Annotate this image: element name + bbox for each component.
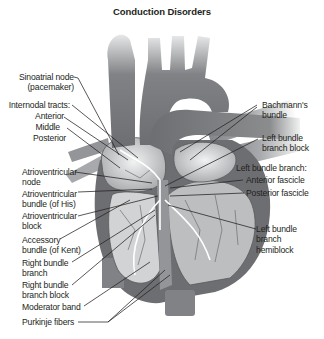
label-posterior-fascicle: Posterior fascicle bbox=[246, 188, 309, 198]
label-bundle-of-his: Atrioventricular bundle (of His) bbox=[22, 189, 77, 210]
label-anterior-fascicle: Anterior fascicle bbox=[246, 175, 305, 185]
label-left-bundle-branch-hemiblock: Left bundle branch hemiblock bbox=[256, 224, 297, 255]
label-internodal-anterior: Anterior bbox=[0, 111, 64, 121]
label-internodal-posterior: Posterior bbox=[0, 133, 66, 143]
label-right-bundle-branch-block: Right bundle branch block bbox=[22, 280, 69, 301]
label-bundle-of-kent: Accessory bundle (of Kent) bbox=[22, 235, 81, 256]
label-sinoatrial-node: Sinoatrial node (pacemaker) bbox=[0, 72, 74, 93]
label-left-bundle-branch: Left bundle branch: bbox=[236, 163, 307, 173]
label-right-bundle-branch: Right bundle branch bbox=[22, 258, 68, 279]
label-internodal-tracts: Internodal tracts: bbox=[0, 100, 70, 110]
label-internodal-middle: Middle bbox=[0, 122, 60, 132]
label-moderator-band: Moderator band bbox=[22, 302, 81, 312]
label-bachmanns-bundle: Bachmann's bundle bbox=[262, 100, 308, 121]
label-purkinje-fibers: Purkinje fibers bbox=[22, 317, 74, 327]
label-left-bundle-branch-block: Left bundle branch block bbox=[262, 133, 309, 154]
label-av-node: Atrioventricular node bbox=[22, 167, 77, 188]
label-av-block: Atrioventricular block bbox=[22, 211, 77, 232]
